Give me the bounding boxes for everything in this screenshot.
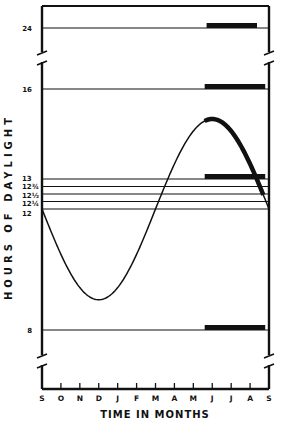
treatment-bar-24h — [207, 23, 257, 28]
y-tick-label: 13 — [22, 175, 32, 183]
y-tick-label: 12¼ — [22, 200, 39, 208]
daylight-chart: 24161312¾12½12¼128 SONDJFMAMJJAS TIME IN… — [0, 0, 284, 424]
y-tick-label: 16 — [22, 86, 32, 94]
x-tick-labels: SONDJFMAMJJAS — [39, 394, 271, 403]
x-tick-label: F — [134, 394, 139, 403]
x-tick-label: A — [247, 394, 253, 403]
treatment-bar-8h — [205, 325, 266, 330]
x-tick-label: J — [115, 394, 119, 403]
x-tick-label: S — [266, 394, 271, 403]
x-tick-label: D — [96, 394, 102, 403]
y-axis-title: HOURS OF DAYLIGHT — [3, 114, 14, 300]
x-tick-label: S — [39, 394, 44, 403]
x-tick-label: O — [58, 394, 64, 403]
y-tick-labels: 24161312¾12½12¼128 — [22, 25, 39, 335]
daylength-highlight — [205, 119, 264, 195]
x-tick-label: A — [172, 394, 178, 403]
x-tick-label: M — [190, 394, 197, 403]
x-tick-label: N — [77, 394, 83, 403]
x-tick-label: J — [210, 394, 214, 403]
treatment-bar-16h — [205, 84, 266, 89]
x-tick-label: M — [152, 394, 159, 403]
y-tick-label: 12 — [22, 210, 32, 218]
x-axis-title: TIME IN MONTHS — [100, 409, 210, 420]
y-tick-label: 12½ — [22, 192, 39, 200]
chart-frame — [37, 6, 274, 389]
y-tick-label: 24 — [22, 25, 32, 33]
y-tick-label: 12¾ — [22, 183, 39, 191]
y-tick-label: 8 — [27, 327, 32, 335]
x-tick-label: J — [229, 394, 233, 403]
